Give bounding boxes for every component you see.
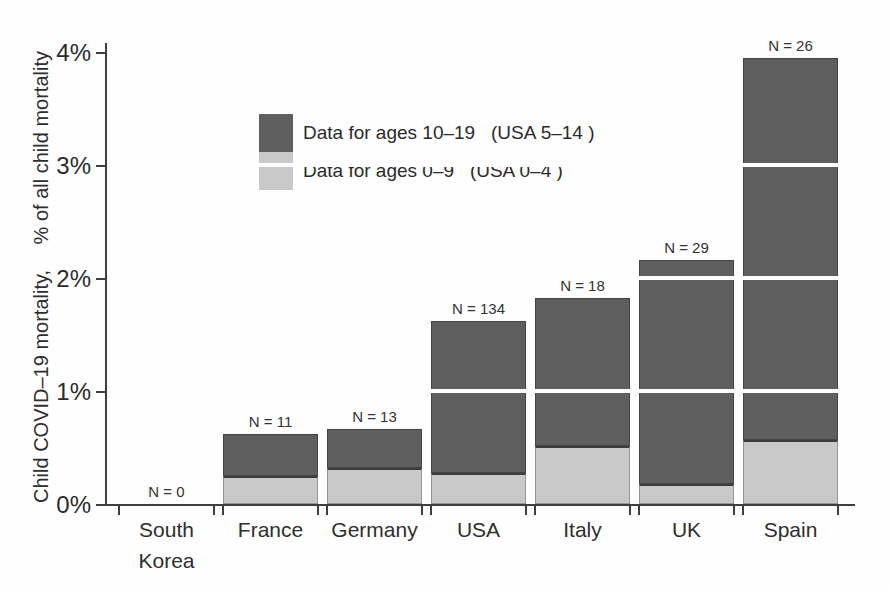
n-label-Spain: N = 26 [768, 37, 813, 54]
x-axis-label-line: Spain [764, 514, 818, 545]
x-axis-label-Italy: Italy [563, 514, 602, 545]
x-tick-left-Spain [742, 506, 744, 515]
x-tick-left-USA [430, 506, 432, 515]
y-axis-title-part2: % of all child mortality [30, 51, 53, 244]
x-axis-label-line: UK [672, 514, 701, 545]
x-tick-right-Spain [837, 506, 839, 515]
bar-segment-dark-USA [431, 321, 526, 474]
n-label-UK: N = 29 [664, 239, 709, 256]
y-tick-3% [96, 165, 105, 167]
n-label-USA: N = 134 [452, 300, 505, 317]
y-tick-1% [96, 391, 105, 393]
x-tick-left-South Korea [118, 506, 120, 515]
x-tick-left-Italy [534, 506, 536, 515]
bar-segment-dark-Germany [327, 429, 422, 467]
bar-segment-dark-UK [639, 260, 734, 484]
x-axis-label-line: Korea [138, 545, 194, 576]
x-tick-right-South Korea [213, 506, 215, 515]
x-tick-right-Italy [629, 506, 631, 515]
x-axis-label-Spain: Spain [764, 514, 818, 545]
x-axis-label-line: Italy [563, 514, 602, 545]
y-axis-line [105, 43, 107, 506]
n-label-Germany: N = 13 [352, 408, 397, 425]
legend-label-ages-10-19: Data for ages 10–19 (USA 5–14 ) [303, 114, 595, 152]
bar-segment-light-USA [431, 473, 526, 504]
x-axis-label-France: France [238, 514, 303, 545]
bar-segment-light-UK [639, 484, 734, 504]
bar-segment-light-France [223, 476, 318, 504]
gridline-1pct [108, 389, 853, 393]
y-tick-label-0%: 0% [33, 491, 91, 519]
gridline-3pct [108, 163, 853, 167]
legend-labels: Data for ages 10–19 (USA 5–14 ) Data for… [303, 114, 595, 190]
n-label-South Korea: N = 0 [148, 483, 184, 500]
x-tick-right-USA [525, 506, 527, 515]
x-axis-label-line: USA [457, 514, 500, 545]
y-tick-label-2%: 2% [33, 265, 91, 293]
x-tick-right-UK [733, 506, 735, 515]
y-tick-label-4%: 4% [33, 39, 91, 67]
y-tick-label-1%: 1% [33, 378, 91, 406]
x-tick-left-UK [638, 506, 640, 515]
bar-segment-dark-Spain [743, 58, 838, 440]
x-axis-label-line: Germany [331, 514, 417, 545]
bar-segment-light-Spain [743, 440, 838, 504]
x-axis-label-UK: UK [672, 514, 701, 545]
y-tick-2% [96, 278, 105, 280]
n-label-Italy: N = 18 [560, 277, 605, 294]
x-tick-left-Germany [326, 506, 328, 515]
y-tick-0% [96, 504, 105, 506]
legend-label-ages-0-9: Data for ages 0–9 (USA 0–4 ) [303, 152, 595, 190]
x-axis-label-USA: USA [457, 514, 500, 545]
bar-segment-dark-Italy [535, 298, 630, 446]
x-tick-right-Germany [421, 506, 423, 515]
bar-segment-light-Germany [327, 468, 422, 504]
legend-swatch-ages-0-9 [259, 152, 293, 190]
legend-swatches [259, 114, 293, 190]
n-label-France: N = 11 [249, 413, 293, 430]
bar-segment-dark-France [223, 434, 318, 476]
x-axis-label-line: South [138, 514, 194, 545]
y-tick-4% [96, 52, 105, 54]
legend: Data for ages 10–19 (USA 5–14 ) Data for… [259, 114, 595, 190]
bar-segment-light-Italy [535, 446, 630, 504]
x-axis-label-South Korea: SouthKorea [138, 514, 194, 576]
x-axis-label-Germany: Germany [331, 514, 417, 545]
x-tick-left-France [222, 506, 224, 515]
legend-swatch-ages-10-19 [259, 114, 293, 152]
x-axis-label-line: France [238, 514, 303, 545]
x-tick-right-France [317, 506, 319, 515]
chart-figure: Child COVID–19 mortality, % of all child… [0, 0, 890, 591]
y-tick-label-3%: 3% [33, 152, 91, 180]
gridline-2pct [108, 276, 853, 280]
